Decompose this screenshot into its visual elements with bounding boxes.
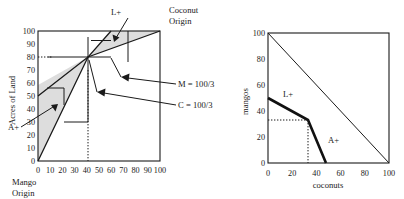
- right-aplus-label: A+: [328, 135, 339, 145]
- left-y-tick-20: 20: [27, 131, 35, 140]
- coconut-origin-label-line2: Origin: [169, 16, 192, 26]
- left-y-tick-40: 40: [27, 105, 35, 114]
- left-x-tick-90: 90: [144, 166, 152, 175]
- figure-container: 100 90 80 70 60 50 40 30 20 10 0 0 10 20…: [0, 0, 404, 199]
- left-x-tick-30: 30: [71, 166, 79, 175]
- right-x-axis-label: coconuts: [313, 180, 344, 190]
- right-y-tick-60: 60: [257, 81, 265, 90]
- left-aplus-label: A+: [8, 122, 19, 132]
- left-y-tick-50: 50: [27, 92, 35, 101]
- coconut-origin-label-line1: Coconut: [169, 5, 199, 15]
- left-y-tick-90: 90: [27, 40, 35, 49]
- left-x-tick-60: 60: [107, 166, 115, 175]
- right-x-tick-60: 60: [337, 169, 345, 178]
- right-y-tick-20: 20: [257, 133, 265, 142]
- left-y-tick-10: 10: [27, 144, 35, 153]
- right-x-tick-80: 80: [361, 169, 369, 178]
- m-ratio-leader-line2: [111, 58, 121, 77]
- m-ratio-leader-line: [128, 78, 176, 84]
- m-ratio-arrowhead: [121, 74, 130, 82]
- m-ratio-label: M = 100/3: [178, 79, 214, 89]
- c-ratio-label: C = 100/3: [178, 100, 212, 110]
- left-y-tick-80: 80: [27, 53, 35, 62]
- right-y-tick-80: 80: [257, 55, 265, 64]
- left-x-tick-50: 50: [95, 166, 103, 175]
- left-x-tick-40: 40: [83, 166, 91, 175]
- c-ratio-leader-line2: [89, 60, 97, 92]
- left-x-tick-10: 10: [46, 166, 54, 175]
- mango-origin-label-line2: Origin: [12, 188, 35, 198]
- right-y-tick-40: 40: [257, 107, 265, 116]
- c-ratio-leader-line: [104, 93, 176, 105]
- left-y-tick-30: 30: [27, 118, 35, 127]
- figure-svg: 100 90 80 70 60 50 40 30 20 10 0 0 10 20…: [0, 0, 404, 199]
- ppf-line-lplus: [268, 98, 326, 163]
- left-x-tick-20: 20: [58, 166, 66, 175]
- left-x-tick-100: 100: [154, 166, 166, 175]
- left-x-tick-0: 0: [36, 166, 40, 175]
- c-ratio-arrowhead: [97, 89, 106, 97]
- left-y-tick-0: 0: [31, 157, 35, 166]
- right-x-tick-40: 40: [312, 169, 320, 178]
- right-panel: 100 80 60 40 20 0 0 20 40 60 80 100 mang…: [240, 29, 395, 190]
- right-y-tick-0: 0: [261, 159, 265, 168]
- right-y-tick-100: 100: [253, 29, 265, 38]
- left-lplus-label: L+: [111, 7, 121, 17]
- right-x-tick-0: 0: [266, 169, 270, 178]
- right-x-tick-20: 20: [288, 169, 296, 178]
- left-panel: 100 90 80 70 60 50 40 30 20 10 0 0 10 20…: [7, 5, 214, 198]
- mango-origin-label-line1: Mango: [12, 177, 36, 187]
- right-y-axis-label: mangos: [240, 88, 250, 115]
- left-y-tick-100: 100: [23, 27, 35, 36]
- left-y-tick-70: 70: [27, 66, 35, 75]
- left-y-axis-label: Acres of Land: [7, 75, 17, 125]
- right-x-tick-100: 100: [383, 169, 395, 178]
- left-x-tick-70: 70: [119, 166, 127, 175]
- right-lplus-label: L+: [283, 89, 293, 99]
- left-y-tick-60: 60: [27, 79, 35, 88]
- left-x-tick-80: 80: [132, 166, 140, 175]
